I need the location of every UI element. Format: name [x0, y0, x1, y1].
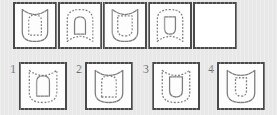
option-1[interactable]: 1 [10, 62, 67, 110]
stem-cell-5-answer-blank[interactable] [193, 2, 237, 49]
figure-option-2 [87, 64, 131, 108]
option-2-box[interactable] [85, 62, 133, 110]
outer-shield-notched-bottom-dashed [67, 10, 92, 42]
inner-arch-tall-solid [37, 76, 50, 96]
puzzle-canvas: 1 2 3 [0, 0, 277, 115]
option-2[interactable]: 2 [76, 62, 133, 110]
outer-shield-notched-top-dashed [162, 70, 190, 102]
figure-stem-1 [15, 4, 55, 47]
inner-u-wide-dashed [118, 16, 133, 36]
option-2-number: 2 [76, 63, 82, 75]
outer-shield-notched-top-solid [112, 10, 137, 42]
outer-shield-notched-top-solid [95, 70, 123, 102]
stem-cell-2[interactable] [58, 2, 102, 49]
inner-arch-tall-dashed [29, 15, 42, 35]
outer-shield-notched-top-dashed [29, 70, 57, 102]
answer-options-row: 1 2 3 [10, 62, 272, 112]
option-3-number: 3 [143, 63, 149, 75]
option-4[interactable]: 4 [208, 62, 265, 110]
figure-option-3 [154, 64, 198, 108]
option-3[interactable]: 3 [143, 62, 200, 110]
figure-option-1 [21, 64, 65, 108]
stem-cell-4[interactable] [148, 2, 192, 49]
inner-u-narrow-dashed [236, 78, 247, 96]
option-4-number: 4 [208, 63, 214, 75]
option-4-box[interactable] [217, 62, 265, 110]
figure-stem-2 [60, 4, 100, 47]
option-1-number: 1 [10, 63, 16, 75]
figure-stem-4 [150, 4, 190, 47]
inner-arch-tall-dashed [102, 76, 117, 97]
outer-shield-notched-top-solid [22, 10, 47, 42]
stem-cell-3[interactable] [103, 2, 147, 49]
stem-sequence-row [13, 2, 237, 49]
option-3-box[interactable] [152, 62, 200, 110]
figure-stem-5-empty [195, 4, 235, 47]
figure-option-4 [219, 64, 263, 108]
option-1-box[interactable] [19, 62, 67, 110]
outer-shield-notched-top-solid [227, 70, 255, 102]
inner-u-narrow-solid [170, 77, 183, 97]
inner-u-narrow-solid [165, 17, 176, 34]
outer-shield-notched-bottom-dashed [157, 10, 182, 42]
inner-arch-tall-solid [75, 17, 86, 34]
figure-stem-3 [105, 4, 145, 47]
stem-cell-1[interactable] [13, 2, 57, 49]
